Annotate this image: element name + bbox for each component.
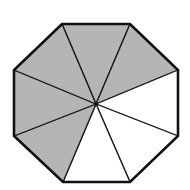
center-point — [94, 102, 97, 105]
octagon-diagram — [0, 0, 190, 190]
